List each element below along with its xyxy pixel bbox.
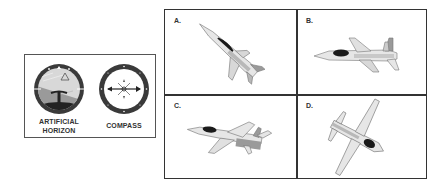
- jet-level-icon: [297, 10, 428, 94]
- option-b[interactable]: B.: [297, 10, 428, 94]
- artificial-horizon-label: ARTIFICIAL HORIZON: [29, 117, 89, 135]
- artificial-horizon-icon: [33, 63, 85, 115]
- option-d[interactable]: D.: [297, 95, 428, 179]
- compass-icon: [98, 63, 150, 115]
- option-c[interactable]: C.: [165, 95, 296, 179]
- compass-instrument: [98, 63, 150, 115]
- artificial-horizon-instrument: [33, 63, 85, 115]
- option-a[interactable]: A.: [165, 10, 296, 94]
- instrument-panel: ARTIFICIAL HORIZON COMPASS: [24, 54, 156, 138]
- jet-topview-icon: [297, 95, 428, 179]
- jet-climbing-icon: [165, 10, 296, 94]
- artificial-horizon-label-line1: ARTIFICIAL: [29, 117, 89, 126]
- jet-banking-icon: [165, 95, 296, 179]
- options-grid: A. B.: [164, 9, 427, 179]
- artificial-horizon-label-line2: HORIZON: [29, 126, 89, 135]
- compass-label: COMPASS: [94, 121, 154, 130]
